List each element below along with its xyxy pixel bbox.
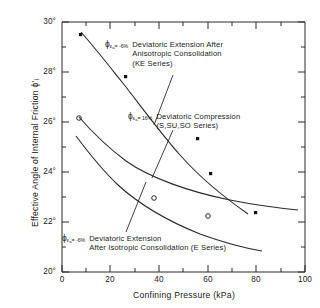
annotation-e-line-1: Deviatoric Extension bbox=[89, 234, 226, 243]
y-tick-label-24: 24° bbox=[30, 167, 56, 176]
annotation-e-series: ϕεa= -6% Deviatoric Extension After Isot… bbox=[62, 234, 226, 253]
phi-subscript: εa= -6% bbox=[67, 237, 85, 243]
annotation-e-phi-label: ϕεa= -6% bbox=[62, 234, 85, 246]
leader-compression bbox=[152, 130, 173, 178]
y-ticks-minor bbox=[62, 47, 66, 247]
series-markers-compression bbox=[209, 172, 257, 214]
x-tick-label-40: 40 bbox=[146, 275, 172, 284]
x-ticks-top bbox=[86, 22, 281, 29]
x-tick-label-100: 100 bbox=[292, 275, 318, 284]
annotation-compression-phi-label: ϕεa= 16% bbox=[128, 112, 152, 124]
y-tick-label-30: 30° bbox=[30, 17, 56, 26]
annotation-compression-line-2: (S,SU,SO Series) bbox=[156, 121, 240, 130]
data-point bbox=[254, 211, 257, 214]
annotation-ke-series: ϕεa= -6% Deviatoric Extension After Anis… bbox=[105, 40, 223, 68]
annotation-ke-phi-label: ϕεa= -6% bbox=[105, 40, 128, 52]
y-tick-label-22: 22° bbox=[30, 217, 56, 226]
y-tick-label-26: 26° bbox=[30, 117, 56, 126]
annotation-compression-line-1: Deviatoric Compression bbox=[156, 112, 240, 121]
y-tick-label-28: 28° bbox=[30, 67, 56, 76]
annotation-ke-line-2: Anisotropic Consolidation bbox=[132, 49, 223, 58]
annotation-compression-series: ϕεa= 16% Deviatoric Compression (S,SU,SO… bbox=[128, 112, 240, 131]
x-tick-label-80: 80 bbox=[243, 275, 269, 284]
chart-figure: Effective Angle of Internal Friction ϕ'ᵢ… bbox=[0, 0, 320, 308]
y-axis-title-text: Effective Angle of Internal Friction ϕ'ᵢ bbox=[30, 79, 40, 227]
data-point bbox=[152, 196, 157, 201]
phi-subscript: εa= -6% bbox=[110, 43, 128, 49]
x-tick-label-0: 0 bbox=[49, 275, 75, 284]
data-point bbox=[124, 75, 127, 78]
annotation-compression-text: Deviatoric Compression (S,SU,SO Series) bbox=[156, 112, 240, 131]
annotation-ke-line-1: Deviatoric Extension After bbox=[132, 40, 223, 49]
phi-subscript: εa= 16% bbox=[133, 115, 153, 121]
data-point bbox=[79, 33, 82, 36]
annotation-ke-text: Deviatoric Extension After Anisotropic C… bbox=[132, 40, 223, 68]
data-point bbox=[209, 172, 212, 175]
x-tick-label-20: 20 bbox=[97, 275, 123, 284]
data-point bbox=[77, 116, 82, 121]
x-tick-label-60: 60 bbox=[195, 275, 221, 284]
annotation-e-text: Deviatoric Extension After Isotropic Con… bbox=[89, 234, 226, 253]
x-axis-title: Confining Pressure (kPa) bbox=[62, 290, 306, 300]
series-markers-e bbox=[77, 116, 211, 219]
data-point bbox=[206, 214, 211, 219]
y-axis-title: Effective Angle of Internal Friction ϕ'ᵢ bbox=[30, 28, 40, 278]
annotation-ke-line-3: (KE Series) bbox=[132, 59, 223, 68]
data-point bbox=[196, 137, 199, 140]
x-axis-title-text: Confining Pressure (kPa) bbox=[133, 290, 235, 300]
leader-e bbox=[126, 182, 146, 232]
y-ticks-right bbox=[298, 22, 305, 272]
annotation-e-line-2: After Isotropic Consolidation (E Series) bbox=[89, 243, 226, 252]
x-ticks-bottom bbox=[62, 265, 305, 272]
